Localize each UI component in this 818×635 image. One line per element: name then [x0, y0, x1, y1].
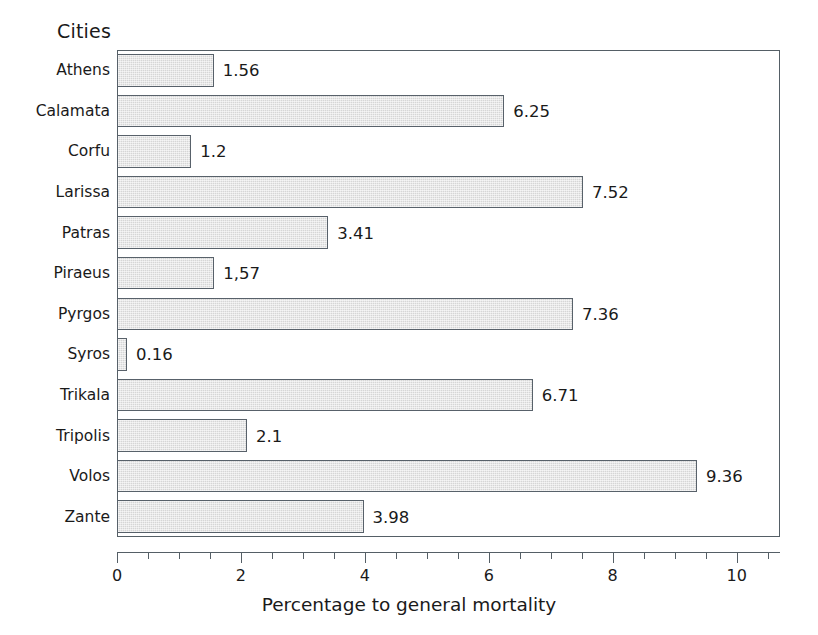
- x-tick-major: [489, 552, 490, 563]
- x-tick-minor: [427, 552, 428, 559]
- x-tick-minor: [768, 552, 769, 559]
- bar-corfu[interactable]: [117, 135, 191, 167]
- bar-zante[interactable]: [117, 500, 364, 532]
- bar-piraeus[interactable]: [117, 257, 214, 289]
- bar-row: 7.36: [117, 298, 780, 330]
- category-label-larissa: Larissa: [0, 183, 110, 201]
- x-tick-minor: [396, 552, 397, 559]
- bar-row: 7.52: [117, 176, 780, 208]
- category-label-zante: Zante: [0, 508, 110, 526]
- x-tick-minor: [210, 552, 211, 559]
- bar-row: 0.16: [117, 338, 780, 370]
- bar-value-label: 1,57: [223, 264, 260, 283]
- bar-row: 6.71: [117, 379, 780, 411]
- category-label-syros: Syros: [0, 345, 110, 363]
- x-tick-minor: [582, 552, 583, 559]
- bar-volos[interactable]: [117, 460, 697, 492]
- x-tick-major: [117, 552, 118, 563]
- bars-layer: 1.566.251.27.523.411,577.360.166.712.19.…: [117, 50, 780, 537]
- x-tick-minor: [520, 552, 521, 559]
- x-tick-label: 8: [608, 566, 618, 585]
- y-axis-tick-labels: AthensCalamataCorfuLarissaPatrasPiraeusP…: [0, 50, 110, 537]
- x-tick-minor: [675, 552, 676, 559]
- bar-row: 1.2: [117, 135, 780, 167]
- x-tick-label: 2: [236, 566, 246, 585]
- x-tick-minor: [179, 552, 180, 559]
- bar-tripolis[interactable]: [117, 419, 247, 451]
- bar-patras[interactable]: [117, 216, 328, 248]
- x-axis-title: Percentage to general mortality: [0, 594, 818, 615]
- bar-value-label: 6.71: [542, 385, 579, 404]
- bar-value-label: 6.25: [513, 101, 550, 120]
- category-label-athens: Athens: [0, 61, 110, 79]
- category-label-corfu: Corfu: [0, 142, 110, 160]
- category-label-volos: Volos: [0, 467, 110, 485]
- bar-value-label: 2.1: [256, 426, 282, 445]
- bar-chart: Cities AthensCalamataCorfuLarissaPatrasP…: [0, 0, 818, 635]
- bar-athens[interactable]: [117, 54, 214, 86]
- category-label-piraeus: Piraeus: [0, 264, 110, 282]
- bar-pyrgos[interactable]: [117, 298, 573, 330]
- bar-row: 9.36: [117, 460, 780, 492]
- bar-value-label: 1.56: [223, 61, 260, 80]
- x-tick-label: 10: [726, 566, 746, 585]
- bar-value-label: 3.98: [373, 507, 410, 526]
- bar-row: 1.56: [117, 54, 780, 86]
- bar-value-label: 7.36: [582, 304, 619, 323]
- x-axis-line: [117, 552, 780, 553]
- x-tick-label: 0: [112, 566, 122, 585]
- x-tick-minor: [303, 552, 304, 559]
- category-label-tripolis: Tripolis: [0, 427, 110, 445]
- x-tick-minor: [706, 552, 707, 559]
- bar-calamata[interactable]: [117, 95, 504, 127]
- category-label-pyrgos: Pyrgos: [0, 305, 110, 323]
- bar-syros[interactable]: [117, 338, 127, 370]
- x-tick-minor: [551, 552, 552, 559]
- x-tick-major: [613, 552, 614, 563]
- x-tick-label: 4: [360, 566, 370, 585]
- x-tick-minor: [272, 552, 273, 559]
- bar-row: 6.25: [117, 95, 780, 127]
- bar-value-label: 7.52: [592, 183, 629, 202]
- x-tick-major: [737, 552, 738, 563]
- x-tick-major: [365, 552, 366, 563]
- bar-row: 3.41: [117, 216, 780, 248]
- bar-value-label: 1.2: [200, 142, 226, 161]
- y-axis-title: Cities: [57, 20, 111, 42]
- bar-row: 3.98: [117, 500, 780, 532]
- x-tick-minor: [458, 552, 459, 559]
- x-tick-minor: [334, 552, 335, 559]
- bar-value-label: 9.36: [706, 467, 743, 486]
- x-tick-label: 6: [484, 566, 494, 585]
- category-label-calamata: Calamata: [0, 102, 110, 120]
- x-tick-minor: [148, 552, 149, 559]
- category-label-patras: Patras: [0, 224, 110, 242]
- bar-value-label: 0.16: [136, 345, 173, 364]
- bar-value-label: 3.41: [337, 223, 374, 242]
- x-tick-major: [241, 552, 242, 563]
- bar-trikala[interactable]: [117, 379, 533, 411]
- bar-row: 1,57: [117, 257, 780, 289]
- bar-row: 2.1: [117, 419, 780, 451]
- x-tick-minor: [644, 552, 645, 559]
- bar-larissa[interactable]: [117, 176, 583, 208]
- category-label-trikala: Trikala: [0, 386, 110, 404]
